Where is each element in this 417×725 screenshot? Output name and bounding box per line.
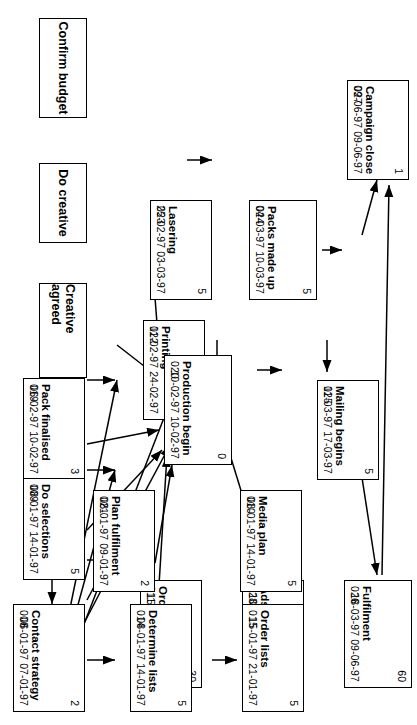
task-name: Determine lists: [147, 610, 159, 692]
task-duration: 5: [301, 288, 313, 294]
task-name: Packs made up: [266, 206, 278, 290]
task-dates: 06-01-97 07-01-97: [18, 617, 30, 706]
task-dates: 10-02-97 10-02-97: [169, 370, 181, 459]
task-dates: 08-01-97 14-01-97: [245, 497, 257, 586]
milestone-box-do-creative[interactable]: Do creative: [39, 163, 87, 243]
task-dates: 25-02-97 03-03-97: [155, 205, 167, 294]
task-node-008[interactable]: 008 Contact strategy 2 06-01-97 07-01-97: [13, 604, 85, 712]
task-name: Media plan: [257, 496, 269, 555]
task-name: Do selections: [40, 484, 52, 559]
task-name: Contact strategy: [30, 610, 42, 701]
milestone-label: Creative agreed: [49, 284, 77, 377]
task-name: Lasering: [167, 206, 179, 254]
task-dates: 11-03-97 17-03-97: [322, 386, 334, 474]
network-diagram: 027 Campaign close 1 09-06-97 09-06-97 0…: [0, 0, 417, 725]
task-dates: 15-01-97 21-01-97: [247, 617, 259, 706]
task-node-021[interactable]: 021 Plan fulfilment 2 08-01-97 09-01-97: [93, 490, 155, 592]
task-dates: 09-06-97 09-06-97: [352, 85, 364, 174]
milestone-box-confirm-budget[interactable]: Confirm budget: [39, 18, 87, 118]
milestone-label: Do creative: [56, 169, 70, 236]
task-duration: 5: [69, 568, 81, 574]
task-dates: 04-03-97 10-03-97: [254, 205, 266, 294]
task-duration: 5: [196, 288, 208, 294]
task-duration: 2: [139, 580, 151, 586]
task-dates: 11-02-97 24-02-97: [148, 326, 160, 414]
task-duration: 0: [216, 453, 228, 459]
task-node-014[interactable]: 014 Determine lists 5 08-01-97 14-01-97: [130, 604, 192, 712]
task-name: Fulfilment: [361, 586, 373, 641]
task-dates: 08-01-97 14-01-97: [135, 617, 147, 706]
task-node-027[interactable]: 027 Campaign close 1 09-06-97 09-06-97: [347, 80, 409, 180]
task-node-019[interactable]: 019 Pack finalised 3 06-02-97 10-02-97: [23, 378, 85, 480]
task-duration: 1: [393, 168, 405, 174]
task-dates: 06-02-97 10-02-97: [28, 385, 40, 474]
task-name: Production begin: [181, 361, 193, 456]
task-duration: 5: [288, 700, 300, 706]
task-name: Order lists: [259, 610, 271, 668]
task-node-010[interactable]: 010 Media plan 5 08-01-97 14-01-97: [240, 490, 302, 592]
task-node-025[interactable]: 025 Mailing begins 5 11-03-97 17-03-97: [317, 380, 379, 480]
diagram-canvas: 027 Campaign close 1 09-06-97 09-06-97 0…: [0, 0, 417, 725]
task-node-020[interactable]: 020 Production begin 0 10-02-97 10-02-97: [164, 355, 232, 465]
task-dates: 08-01-97 09-01-97: [98, 497, 110, 586]
task-name: Campaign close: [364, 86, 376, 174]
task-name: Pack finalised: [40, 384, 52, 461]
task-node-009[interactable]: 009 Do selections 5 08-01-97 14-01-97: [23, 478, 85, 580]
task-node-026[interactable]: 026 Fulfilment 60 18-03-97 09-06-97: [344, 580, 412, 688]
task-duration: 5: [286, 580, 298, 586]
task-dates: 08-01-97 14-01-97: [28, 485, 40, 574]
task-duration: 5: [176, 700, 188, 706]
task-dates: 18-03-97 09-06-97: [349, 593, 361, 682]
task-duration: 5: [363, 468, 375, 474]
task-node-015[interactable]: 015 Order lists 5 15-01-97 21-01-97: [242, 604, 304, 712]
task-duration: 3: [69, 468, 81, 474]
task-node-023[interactable]: 023 Lasering 5 25-02-97 03-03-97: [150, 200, 212, 300]
task-duration: 60: [396, 670, 408, 682]
task-duration: 2: [69, 700, 81, 706]
task-name: Mailing begins: [334, 386, 346, 466]
milestone-box-creative-agreed[interactable]: Creative agreed: [39, 283, 87, 378]
task-node-024[interactable]: 024 Packs made up 5 04-03-97 10-03-97: [249, 200, 317, 300]
task-name: Plan fulfilment: [110, 496, 122, 575]
milestone-label: Confirm budget: [56, 21, 70, 114]
